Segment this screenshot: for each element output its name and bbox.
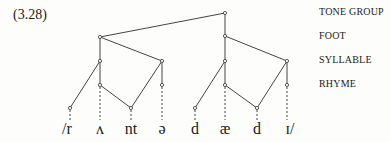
segment: ə bbox=[158, 120, 165, 138]
level-label-syllable: SYLLABLE bbox=[319, 54, 372, 65]
segment: nt bbox=[125, 120, 137, 138]
segment: æ bbox=[220, 120, 231, 138]
level-label-tone-group: TONE GROUP bbox=[319, 6, 384, 17]
segment: d bbox=[253, 120, 261, 138]
segment: ɪ/ bbox=[286, 120, 295, 138]
segment: ʌ bbox=[96, 120, 104, 138]
level-label-rhyme: RHYME bbox=[319, 78, 356, 89]
level-label-foot: FOOT bbox=[319, 30, 346, 41]
segment: d bbox=[191, 120, 199, 138]
segment: /r bbox=[62, 120, 72, 138]
